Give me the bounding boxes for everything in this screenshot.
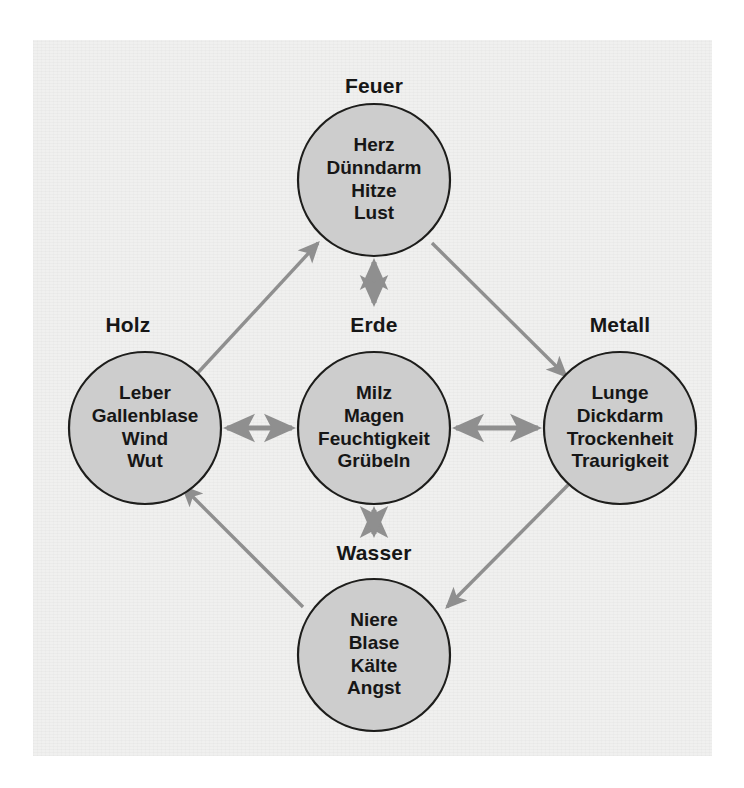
node-item: Blase bbox=[347, 632, 401, 655]
node-label-metall: Metall bbox=[590, 313, 651, 337]
node-item: Niere bbox=[347, 609, 401, 632]
node-item: Magen bbox=[318, 405, 430, 428]
node-items-holz: LeberGallenblaseWindWut bbox=[92, 382, 199, 473]
node-item: Trockenheit bbox=[567, 428, 674, 451]
node-item: Dickdarm bbox=[567, 405, 674, 428]
node-item: Kälte bbox=[347, 655, 401, 678]
node-item: Wind bbox=[92, 428, 199, 451]
node-item: Leber bbox=[92, 382, 199, 405]
node-item: Herz bbox=[327, 134, 422, 157]
node-items-erde: MilzMagenFeuchtigkeitGrübeln bbox=[318, 382, 430, 473]
node-items-wasser: NiereBlaseKälteAngst bbox=[347, 609, 401, 700]
node-label-erde: Erde bbox=[350, 313, 398, 337]
node-item: Hitze bbox=[327, 180, 422, 203]
arrow-metall-to-wasser bbox=[447, 482, 571, 607]
node-item: Feuchtigkeit bbox=[318, 428, 430, 451]
arrow-wasser-to-holz bbox=[183, 487, 303, 607]
node-item: Gallenblase bbox=[92, 405, 199, 428]
node-label-holz: Holz bbox=[105, 313, 150, 337]
node-item: Lunge bbox=[567, 382, 674, 405]
node-label-wasser: Wasser bbox=[336, 541, 411, 565]
node-item: Lust bbox=[327, 203, 422, 226]
node-items-metall: LungeDickdarmTrockenheitTraurigkeit bbox=[567, 382, 674, 473]
arrow-holz-to-feuer bbox=[194, 243, 318, 377]
node-label-feuer: Feuer bbox=[345, 74, 403, 98]
diagram-canvas: FeuerHerzDünndarmHitzeLustHolzLeberGalle… bbox=[0, 0, 744, 788]
node-item: Grübeln bbox=[318, 451, 430, 474]
node-item: Dünndarm bbox=[327, 157, 422, 180]
node-item: Angst bbox=[347, 678, 401, 701]
node-item: Wut bbox=[92, 451, 199, 474]
arrow-feuer-to-metall bbox=[432, 243, 566, 376]
node-item: Milz bbox=[318, 382, 430, 405]
node-item: Traurigkeit bbox=[567, 451, 674, 474]
node-items-feuer: HerzDünndarmHitzeLust bbox=[327, 134, 422, 225]
